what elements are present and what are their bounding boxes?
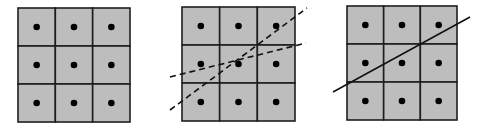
cell-center-dot <box>108 24 115 31</box>
cell-center-dot <box>198 61 205 68</box>
cell-center-dot <box>33 24 40 31</box>
cell-center-dot <box>108 100 115 107</box>
cell-center-dot <box>198 99 205 106</box>
cell-center-dot <box>362 22 369 29</box>
cell-center-dot <box>71 100 78 107</box>
cell-center-dot <box>435 22 442 29</box>
cell-center-dot <box>198 23 205 30</box>
cell-center-dot <box>273 61 280 68</box>
cell-center-dot <box>71 62 78 69</box>
cell-center-dot <box>435 60 442 67</box>
cell-center-dot <box>108 62 115 69</box>
cell-center-dot <box>33 100 40 107</box>
cell-center-dot <box>273 99 280 106</box>
cell-center-dot <box>33 62 40 69</box>
cell-center-dot <box>362 98 369 105</box>
cell-center-dot <box>235 23 242 30</box>
grid-solid-line <box>333 6 470 120</box>
cell-center-dot <box>71 24 78 31</box>
cell-center-dot <box>235 99 242 106</box>
cell-center-dot <box>399 98 406 105</box>
cell-center-dot <box>399 60 406 67</box>
cell-center-dot <box>399 22 406 29</box>
diagram-canvas <box>0 0 482 128</box>
grid-plain <box>18 8 130 122</box>
grid-dashed-lines <box>170 7 307 121</box>
cell-center-dot <box>435 98 442 105</box>
cell-center-dot <box>362 60 369 67</box>
